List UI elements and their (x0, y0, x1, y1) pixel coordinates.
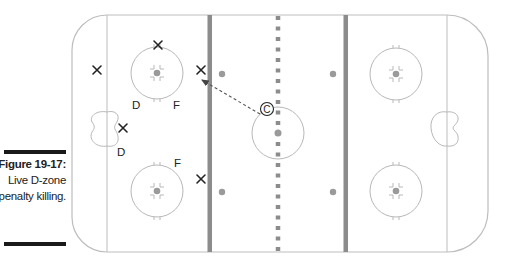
player-c-circled-icon: C (261, 103, 274, 116)
neutral-dot-tl (219, 71, 225, 77)
player-f-label: F (174, 157, 181, 169)
svg-text:C: C (263, 104, 270, 115)
player-d-label: D (117, 146, 125, 158)
faceoff-dot-right-top (393, 71, 400, 78)
left-blue-line (208, 15, 213, 252)
player-d-label: D (132, 99, 140, 111)
faceoff-dot-right-bottom (393, 188, 400, 195)
neutral-dot-br (330, 189, 336, 195)
center-faceoff-dot (275, 130, 282, 137)
neutral-dot-tr (330, 71, 336, 77)
player-f-label: F (173, 99, 180, 111)
faceoff-dot-left-bottom (154, 188, 161, 195)
neutral-dot-bl (219, 189, 225, 195)
hockey-rink-diagram: D F D F C (0, 0, 508, 265)
right-blue-line (344, 15, 349, 252)
faceoff-dot-left-top (154, 70, 161, 77)
